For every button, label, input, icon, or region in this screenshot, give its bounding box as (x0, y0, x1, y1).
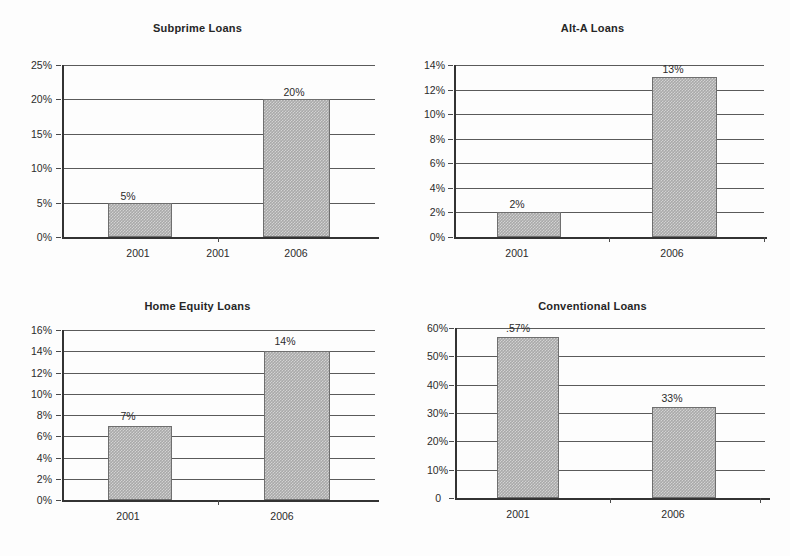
category-axis (62, 237, 379, 239)
y-tick-10 (449, 470, 454, 471)
figure-sheet: Subprime Loans (0, 0, 790, 556)
x-axis-label-1: 2001 (458, 508, 578, 520)
y-axis-label-0: 0% (395, 231, 445, 243)
bar-value-label-2001: .57% (458, 322, 578, 334)
category-axis (62, 500, 379, 502)
y-axis-label-4: 4% (395, 182, 445, 194)
bar-2006 (652, 77, 717, 237)
chart-title: Alt-A Loans (395, 22, 790, 34)
y-tick-2 (448, 212, 453, 213)
bar-value-label-2001: 2% (457, 198, 577, 210)
y-axis-label-16: 16% (0, 324, 52, 336)
value-axis (454, 65, 456, 237)
category-axis (454, 237, 767, 239)
y-axis-label-10: 10% (395, 108, 445, 120)
plot-inner (454, 65, 764, 237)
value-axis (62, 65, 64, 237)
y-axis-label-12: 12% (0, 367, 52, 379)
x-tick-end (764, 237, 765, 242)
gridline-4 (454, 188, 764, 189)
x-axis-label-1: 2001 (457, 247, 577, 259)
y-tick-4 (56, 458, 61, 459)
x-tick-mid (609, 237, 610, 242)
chart-panel-homeequity: Home Equity Loans (0, 278, 395, 556)
y-tick-16 (56, 330, 61, 331)
y-axis-label-8: 8% (395, 133, 445, 145)
y-tick-60 (449, 328, 454, 329)
y-axis-label-15: 15% (0, 128, 52, 140)
y-axis-label-10: 10% (0, 388, 52, 400)
y-axis-label-10: 10% (395, 464, 448, 476)
x-axis-label-1: 2001 (98, 247, 178, 259)
bar-2006 (263, 99, 330, 237)
chart-panel-subprime: Subprime Loans (0, 0, 395, 278)
bar-value-label-2006: 33% (612, 392, 732, 404)
value-axis (62, 330, 64, 500)
y-tick-0 (448, 237, 453, 238)
bar-value-label-2001: 5% (88, 190, 168, 202)
gridline-16 (62, 330, 375, 331)
y-tick-6 (56, 436, 61, 437)
value-axis (455, 328, 457, 498)
y-tick-50 (449, 356, 454, 357)
y-axis-label-8: 8% (0, 409, 52, 421)
bar-2006 (652, 407, 716, 498)
bar-value-label-2006: 14% (225, 335, 345, 347)
y-tick-12 (448, 90, 453, 91)
y-axis-label-14: 14% (0, 345, 52, 357)
y-axis-label-20: 20% (395, 435, 448, 447)
y-tick-10 (56, 168, 61, 169)
bar-2006 (264, 351, 330, 500)
y-axis-label-0: 0% (0, 494, 52, 506)
bar-2001 (497, 337, 559, 499)
y-tick-40 (449, 385, 454, 386)
gridline-10 (454, 114, 764, 115)
bar-2001 (108, 203, 172, 237)
y-tick-30 (449, 413, 454, 414)
plot-inner (455, 328, 765, 498)
bar-value-label-2006: 13% (613, 63, 733, 75)
y-axis-label-60: 60% (395, 322, 448, 334)
x-axis-label-2: 2006 (613, 508, 733, 520)
bar-value-label-2006: 20% (254, 86, 334, 98)
y-axis-label-12: 12% (395, 84, 445, 96)
y-tick-25 (56, 65, 61, 66)
y-axis-label-6: 6% (395, 157, 445, 169)
y-tick-6 (448, 163, 453, 164)
plot-area (455, 328, 765, 498)
y-tick-14 (448, 65, 453, 66)
y-tick-14 (56, 351, 61, 352)
chart-panel-conventional: Conventional Loans (395, 278, 790, 556)
y-axis-label-0: 0% (0, 231, 52, 243)
chart-title: Subprime Loans (0, 22, 395, 34)
bar-value-label-2001: 7% (68, 410, 188, 422)
y-axis-label-14: 14% (395, 59, 445, 71)
gridline-6 (454, 163, 764, 164)
y-tick-0 (56, 500, 61, 501)
y-axis-label-4: 4% (0, 452, 52, 464)
chart-title: Home Equity Loans (0, 300, 395, 312)
y-axis-label-6: 6% (0, 430, 52, 442)
y-tick-8 (448, 139, 453, 140)
y-axis-label-5: 5% (0, 197, 52, 209)
y-axis-label-40: 40% (395, 379, 448, 391)
gridline-8 (454, 139, 764, 140)
x-tick-mid (610, 498, 611, 503)
x-axis-label-2: 2001 (178, 247, 258, 259)
y-axis-label-2: 2% (0, 473, 52, 485)
y-tick-5 (56, 203, 61, 204)
y-axis-label-0: 0 (395, 492, 441, 504)
x-axis-label-3: 2006 (256, 247, 336, 259)
x-axis-label-2: 2006 (612, 247, 732, 259)
chart-panel-alta: Alt-A Loans (395, 0, 790, 278)
y-tick-10 (56, 394, 61, 395)
chart-title: Conventional Loans (395, 300, 790, 312)
y-tick-15 (56, 134, 61, 135)
y-tick-8 (56, 415, 61, 416)
y-tick-0 (449, 498, 454, 499)
y-tick-2 (56, 479, 61, 480)
gridline-25 (62, 65, 375, 66)
y-axis-label-30: 30% (395, 407, 448, 419)
y-tick-20 (56, 99, 61, 100)
y-axis-label-2: 2% (395, 206, 445, 218)
